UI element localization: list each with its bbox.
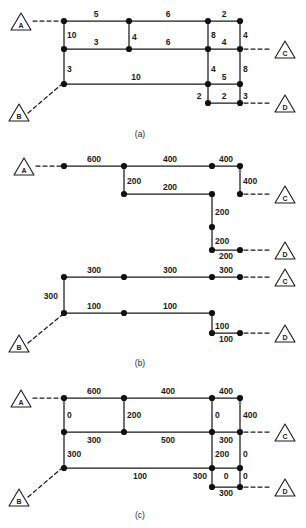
leader-c-terminal-b	[28, 468, 62, 497]
node-b-5	[121, 191, 127, 197]
label-b-seg3: 400	[219, 154, 233, 164]
terminal-label-b-A: A	[21, 167, 26, 174]
node-a-1	[61, 18, 67, 24]
terminal-marker-a-D: D	[275, 95, 295, 112]
label-b-vert3: 200	[215, 236, 229, 246]
label-a-right-outer-vert-bottom: 3	[243, 91, 248, 101]
label-c-top-mid: 400	[161, 386, 175, 396]
label-b-seg1: 600	[87, 154, 101, 164]
label-c-right-outer-vert-lower: 0	[243, 449, 248, 459]
label-a-top-left: 5	[94, 9, 99, 19]
terminal-marker-b-C: C	[275, 186, 295, 203]
terminal-label-c-A: A	[18, 399, 23, 406]
terminal-label-C: C	[282, 50, 287, 57]
node-a-10	[205, 81, 211, 87]
node-a-12	[205, 100, 211, 106]
terminal-marker-a-C: C	[275, 41, 295, 58]
label-b-low-bot1: 100	[87, 301, 101, 311]
node-b-11	[61, 274, 67, 280]
label-a-bottom-long: 10	[131, 72, 141, 82]
label-c-left-upper-vert: 0	[67, 410, 72, 420]
label-c-bottom-left-of-node: 300	[193, 471, 207, 481]
label-a-mid-vert-upper: 4	[132, 32, 137, 42]
panel-c: A B C D 600 400 400 0 200 0 400 300 500 …	[9, 386, 295, 520]
node-c-13	[237, 484, 243, 490]
label-a-right-short-upper: 5	[222, 72, 227, 82]
label-b-seg5: 200	[219, 251, 233, 261]
label-b-low-top1: 300	[87, 265, 101, 275]
label-a-left-lower-vert: 3	[67, 64, 72, 74]
terminal-marker-b-C2: C	[275, 269, 295, 286]
label-a-right-inner-vert-lower: 4	[211, 64, 216, 74]
terminal-marker-c-B: B	[9, 489, 29, 506]
label-c-row2-left: 300	[87, 435, 101, 445]
node-b-13	[209, 274, 215, 280]
label-b-vert-right: 400	[243, 176, 257, 186]
node-b-14	[237, 274, 243, 280]
label-c-right-inner-vert-lower: 200	[215, 449, 229, 459]
terminal-label-b-D: D	[282, 251, 287, 258]
terminal-marker-a-B: B	[9, 104, 29, 121]
label-a-left-upper-vert: 10	[67, 30, 77, 40]
label-b-vert1: 200	[127, 176, 141, 186]
label-a-row2-right: 4	[222, 37, 227, 47]
node-a-3	[205, 18, 211, 24]
label-a-row2-left: 3	[94, 37, 99, 47]
node-c-6	[121, 429, 127, 435]
node-a-4	[237, 18, 243, 24]
node-c-1	[61, 395, 67, 401]
label-a-right-outer-vert-upper: 4	[243, 30, 248, 40]
leader-b-low-terminal-b	[28, 315, 62, 343]
terminal-label-b-C2: C	[282, 278, 287, 285]
terminal-marker-b-B: B	[9, 335, 29, 352]
terminal-label-c-B: B	[16, 498, 21, 505]
terminal-marker-b-D2: D	[275, 325, 295, 342]
node-b-19	[237, 330, 243, 336]
node-b-17	[209, 310, 215, 316]
terminal-label-c-C: C	[282, 433, 287, 440]
terminal-marker-c-C: C	[275, 424, 295, 441]
label-c-left-lower-vert: 300	[67, 449, 81, 459]
caption-a: (a)	[135, 129, 146, 139]
node-c-9	[61, 465, 67, 471]
leader-a-terminal-b	[28, 84, 62, 113]
label-c-row2-mid: 500	[161, 435, 175, 445]
terminal-label-D: D	[282, 104, 287, 111]
label-b-low-top2: 300	[163, 265, 177, 275]
terminal-label-c-D: D	[282, 488, 287, 495]
node-a-5	[61, 46, 67, 52]
node-b-8	[209, 224, 215, 230]
label-a-top-right: 2	[222, 9, 227, 19]
label-c-right-outer-vert-bottom: 0	[243, 471, 248, 481]
node-a-8	[237, 46, 243, 52]
label-a-right-inner-vert-upper: 8	[211, 30, 216, 40]
node-c-4	[237, 395, 243, 401]
node-b-12	[121, 274, 127, 280]
label-b-seg2: 400	[163, 154, 177, 164]
caption-c: (c)	[135, 510, 145, 520]
label-a-right-inner-vert-bottom: 2	[197, 91, 202, 101]
label-a-top-mid: 6	[166, 9, 171, 19]
node-a-6	[126, 46, 132, 52]
panel-a: A B C D 5 6 2 10 4 8 4 3 6 4 3 4 8 10 5 …	[9, 9, 295, 139]
node-b-4	[237, 163, 243, 169]
label-c-top-right: 400	[219, 386, 233, 396]
terminal-marker-b-D: D	[275, 242, 295, 259]
node-c-8	[237, 429, 243, 435]
label-c-top-left: 600	[87, 386, 101, 396]
terminal-label-B: B	[16, 113, 21, 120]
terminal-label-A: A	[18, 22, 23, 29]
label-c-row2-right: 300	[219, 435, 233, 445]
node-b-1	[61, 163, 67, 169]
node-c-5	[61, 429, 67, 435]
node-b-2	[121, 163, 127, 169]
node-b-3	[209, 163, 215, 169]
label-b-vert2: 200	[215, 207, 229, 217]
node-b-9	[209, 247, 215, 253]
terminal-marker-a-A: A	[11, 13, 31, 30]
terminal-label-b-D2: D	[282, 334, 287, 341]
label-b-low-bot3: 100	[219, 334, 233, 344]
label-c-right-inner-vert-bottom: 0	[224, 471, 229, 481]
terminal-marker-b-A: A	[14, 158, 34, 175]
label-b-low-vert-right: 100	[215, 321, 229, 331]
